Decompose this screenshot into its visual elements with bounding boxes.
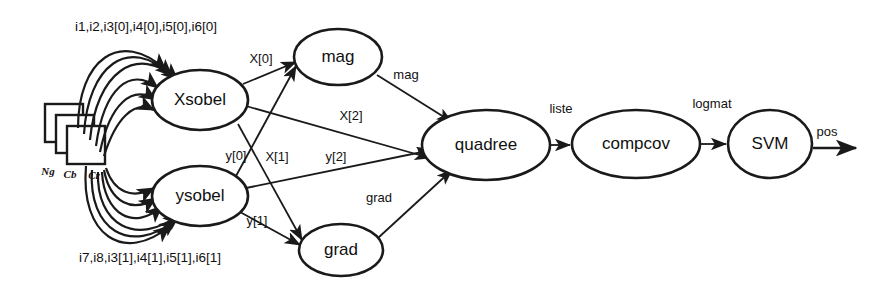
plane-label-cb: Cb	[64, 168, 77, 180]
node-label-svm: SVM	[752, 134, 789, 153]
node-label-quadree: quadree	[455, 135, 517, 154]
node-label-xsobel: Xsobel	[174, 90, 226, 109]
edge-label-xsobel-grad: X[1]	[265, 149, 288, 164]
edge-label-ysobel-mag: y[0]	[226, 148, 247, 163]
node-label-grad: grad	[324, 240, 358, 259]
bundle-label-bottom-inputs: i7,i8,i3[1],i4[1],i5[1],i6[1]	[79, 250, 221, 265]
edge-label-ysobel-grad: y[1]	[247, 213, 268, 228]
edge-label-ysobel-quadree: y[2]	[326, 149, 347, 164]
input-planes-group	[45, 104, 105, 164]
node-label-ysobel: ysobel	[175, 186, 224, 205]
edge-label-grad-quadree: grad	[366, 190, 392, 205]
edge-label-xsobel-quadree: X[2]	[339, 108, 362, 123]
edge-label-xsobel-mag: X[0]	[249, 51, 272, 66]
bundle-label-top-inputs: i1,i2,i3[0],i4[0],i5[0],i6[0]	[75, 19, 217, 34]
dataflow-diagram: Xsobel ysobel mag grad quadree compcov S…	[0, 0, 872, 298]
edge-label-quadree-compcov: liste	[549, 101, 572, 116]
plane-label-cr: Cr	[88, 169, 100, 181]
edge-label-svm-output: pos	[817, 124, 838, 139]
plane-labels-group: Ng Cb Cr	[40, 165, 100, 181]
node-label-mag: mag	[321, 47, 354, 66]
edge-label-mag-quadree: mag	[393, 67, 418, 82]
diagram-canvas: Xsobel ysobel mag grad quadree compcov S…	[0, 0, 872, 298]
edge-label-compcov-svm: logmat	[692, 96, 731, 111]
plane-label-ng: Ng	[40, 165, 55, 177]
node-label-compcov: compcov	[602, 134, 671, 153]
